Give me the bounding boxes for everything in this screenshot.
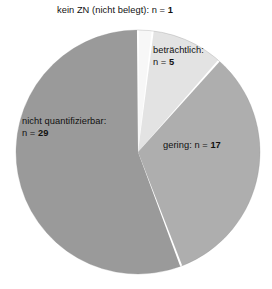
- slice-label-kein-zn: kein ZN (nicht belegt): n = 1: [57, 5, 173, 17]
- slice-label-kein-zn-value: 1: [168, 5, 173, 15]
- slice-label-nicht-quantifizierbar: nicht quantifizierbar: n = 29: [22, 116, 106, 139]
- slice-label-gering-line1: gering: n = 17: [163, 140, 221, 152]
- slice-label-nicht-quantifizierbar-line2: n = 29: [22, 128, 106, 140]
- slice-label-gering-text: gering: n =: [163, 140, 210, 150]
- slice-label-betraechtlich: beträchtlich: n = 5: [153, 45, 204, 68]
- pie-chart-svg: [0, 0, 272, 289]
- slice-label-nicht-quantifizierbar-value: 29: [38, 128, 48, 138]
- slice-label-betraechtlich-line1: beträchtlich:: [153, 45, 204, 57]
- slice-label-betraechtlich-line2: n = 5: [153, 57, 204, 69]
- pie-chart: kein ZN (nicht belegt): n = 1 beträchtli…: [0, 0, 272, 289]
- slice-label-nicht-quantifizierbar-line1: nicht quantifizierbar:: [22, 116, 106, 128]
- slice-label-betraechtlich-value: 5: [169, 57, 174, 67]
- slice-label-kein-zn-line1: kein ZN (nicht belegt): n = 1: [57, 5, 173, 17]
- pie-slice-group: [16, 30, 260, 274]
- slice-label-gering-value: 17: [210, 140, 220, 150]
- slice-label-nicht-quantifizierbar-text: n =: [22, 128, 38, 138]
- slice-label-betraechtlich-text: n =: [153, 57, 169, 67]
- slice-label-kein-zn-text: kein ZN (nicht belegt): n =: [57, 5, 168, 15]
- slice-label-gering: gering: n = 17: [163, 140, 221, 152]
